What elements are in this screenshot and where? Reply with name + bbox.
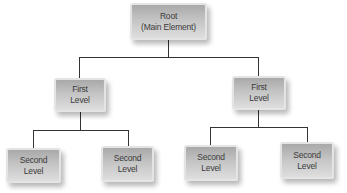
second-level-node-3: Second Level bbox=[184, 145, 238, 181]
second-level-node-4: Second Level bbox=[280, 142, 334, 179]
second-level-4-line2: Level bbox=[297, 161, 316, 172]
first-level-left-line1: First bbox=[72, 84, 88, 95]
second-level-node-2: Second Level bbox=[101, 146, 154, 182]
connector-left-branch-down bbox=[80, 112, 81, 130]
root-node-title: Root bbox=[160, 11, 177, 22]
first-level-node-right: First Level bbox=[232, 76, 286, 110]
root-node-subtitle: (Main Element) bbox=[141, 22, 196, 33]
connector-level1-horizontal bbox=[79, 57, 259, 58]
second-level-3-line2: Level bbox=[201, 163, 220, 174]
second-level-4-line1: Second bbox=[293, 150, 321, 161]
first-level-right-line1: First bbox=[251, 82, 267, 93]
connector-left-child2-down bbox=[128, 130, 129, 146]
connector-root-down bbox=[168, 40, 169, 58]
second-level-3-line1: Second bbox=[197, 152, 225, 163]
root-node: Root (Main Element) bbox=[130, 3, 207, 40]
second-level-1-line1: Second bbox=[20, 155, 48, 166]
connector-right-branch-down bbox=[258, 110, 259, 127]
connector-left-branch-horizontal bbox=[33, 130, 129, 131]
first-level-right-line2: Level bbox=[249, 93, 268, 104]
connector-right-child2-down bbox=[307, 127, 308, 142]
second-level-1-line2: Level bbox=[24, 166, 43, 177]
connector-right-branch-horizontal bbox=[210, 127, 308, 128]
second-level-node-1: Second Level bbox=[6, 148, 61, 183]
second-level-2-line2: Level bbox=[118, 164, 137, 175]
connector-level1-right-down bbox=[258, 57, 259, 76]
second-level-2-line1: Second bbox=[114, 153, 142, 164]
connector-level1-left-down bbox=[79, 57, 80, 78]
first-level-node-left: First Level bbox=[54, 78, 106, 112]
connector-left-child1-down bbox=[33, 130, 34, 148]
first-level-left-line2: Level bbox=[70, 95, 89, 106]
connector-right-child1-down bbox=[210, 127, 211, 145]
